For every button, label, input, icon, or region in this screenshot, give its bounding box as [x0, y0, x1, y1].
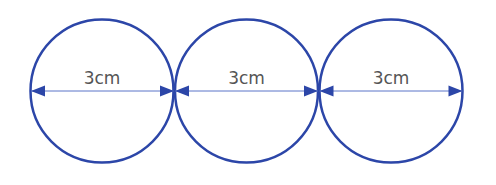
diameter-label-1: 3cm [84, 68, 121, 88]
arrowhead-left-icon [175, 86, 189, 97]
arrowhead-right-icon [449, 86, 463, 97]
arrowhead-right-icon [304, 86, 318, 97]
circles-diagram: 3cm 3cm 3cm [0, 0, 496, 185]
diameter-label-2: 3cm [228, 68, 265, 88]
circle-group-1: 3cm [31, 20, 175, 163]
diameter-label-3: 3cm [373, 68, 410, 88]
arrowhead-left-icon [31, 86, 45, 97]
circle-group-2: 3cm [175, 20, 318, 163]
arrowhead-right-icon [160, 86, 174, 97]
arrowhead-left-icon [320, 86, 334, 97]
circle-group-3: 3cm [320, 20, 463, 163]
